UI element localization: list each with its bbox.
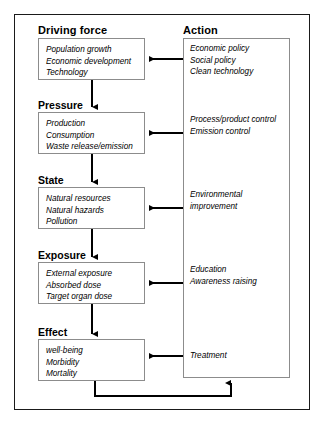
action-item: Process/product control: [190, 114, 276, 126]
stage-item: Natural resources: [46, 193, 141, 205]
stage-item: Population growth: [46, 44, 141, 56]
action-group-driving-force: Economic policy Social policy Clean tech…: [190, 43, 253, 78]
stage-item: External exposure: [46, 268, 141, 280]
stage-item: Waste release/emission: [46, 141, 141, 153]
action-item: improvement: [190, 201, 242, 213]
action-item: Economic policy: [190, 43, 253, 55]
action-item: Treatment: [190, 350, 227, 362]
column-heading-action: Action: [183, 24, 218, 36]
stage-item: Pollution: [46, 216, 141, 228]
action-group-pressure: Process/product control Emission control: [190, 114, 276, 137]
action-group-exposure: Education Awareness raising: [190, 264, 257, 287]
action-item: Social policy: [190, 55, 253, 67]
stage-label-exposure: Exposure: [38, 249, 86, 261]
stage-box-pressure: Production Consumption Waste release/emi…: [38, 112, 145, 154]
stage-item: Morbidity: [46, 357, 141, 369]
stage-item: well-being: [46, 345, 141, 357]
stage-item: Natural hazards: [46, 205, 141, 217]
action-item: Education: [190, 264, 257, 276]
stage-item: Economic development: [46, 56, 141, 68]
stage-item: Consumption: [46, 130, 141, 142]
diagram-canvas: Driving force Action Population growth E…: [0, 0, 324, 426]
stage-label-effect: Effect: [38, 326, 67, 338]
stage-box-exposure: External exposure Absorbed dose Target o…: [38, 262, 145, 304]
stage-box-driving-force: Population growth Economic development T…: [38, 38, 145, 80]
action-group-effect: Treatment: [190, 350, 227, 362]
action-item: Emission control: [190, 126, 276, 138]
action-item: Environmental: [190, 189, 242, 201]
stage-label-state: State: [38, 174, 64, 186]
stage-item: Technology: [46, 67, 141, 79]
stage-item: Mortality: [46, 368, 141, 380]
column-heading-driving-force: Driving force: [38, 24, 107, 36]
stage-label-pressure: Pressure: [38, 99, 83, 111]
action-item: Awareness raising: [190, 276, 257, 288]
stage-box-state: Natural resources Natural hazards Pollut…: [38, 187, 145, 229]
stage-box-effect: well-being Morbidity Mortality: [38, 339, 145, 381]
stage-item: Absorbed dose: [46, 280, 141, 292]
action-group-state: Environmental improvement: [190, 189, 242, 212]
stage-item: Target organ dose: [46, 291, 141, 303]
stage-item: Production: [46, 118, 141, 130]
action-item: Clean technology: [190, 66, 253, 78]
